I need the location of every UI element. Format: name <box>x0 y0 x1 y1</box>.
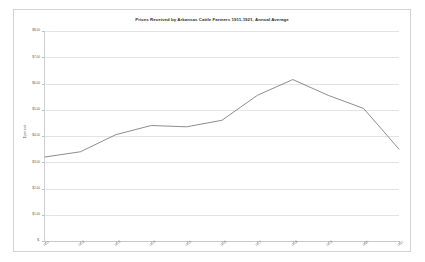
x-tick-label: 1911 <box>43 241 50 248</box>
y-tick-label: $5.00 <box>14 108 40 111</box>
chart-frame: Prices Received by Arkansas Cattle Farme… <box>13 9 411 252</box>
x-tick-label: 1917 <box>255 240 262 247</box>
x-tick-label: 1918 <box>291 240 298 247</box>
x-tick-label: 1916 <box>220 240 227 247</box>
y-tick-label: $3.00 <box>14 161 40 164</box>
x-tick-label: 1913 <box>114 240 121 247</box>
x-tick-label: 1920 <box>362 240 369 247</box>
y-tick-label: $4.00 <box>14 134 40 137</box>
y-tick-label: $8.00 <box>14 29 40 32</box>
y-tick-label: $7.00 <box>14 56 40 59</box>
y-tick-label: $2.00 <box>14 187 40 190</box>
x-tick-label: 1919 <box>326 240 333 247</box>
y-tick-label: $- <box>14 239 40 242</box>
x-tick-label: 1914 <box>149 240 156 247</box>
chart-title: Prices Received by Arkansas Cattle Farme… <box>14 17 410 23</box>
series-line-annual-average-price <box>45 31 399 241</box>
y-tick-label: $6.00 <box>14 82 40 85</box>
x-tick-label: 1915 <box>185 240 192 247</box>
x-tick-label: 1921 <box>397 240 404 247</box>
x-tick-label: 1912 <box>78 240 85 247</box>
y-tick-label: $1.00 <box>14 213 40 216</box>
plot-area: $-$1.00$2.00$3.00$4.00$5.00$6.00$7.00$8.… <box>45 31 399 241</box>
